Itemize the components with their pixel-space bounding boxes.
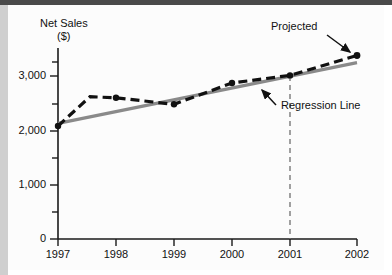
regression-line-series xyxy=(58,63,357,124)
y-axis-title-line2: ($) xyxy=(57,31,70,42)
data-point-2000 xyxy=(229,80,235,86)
x-tick-label-1997: 1997 xyxy=(34,249,82,260)
x-tick-label-1999: 1999 xyxy=(150,249,198,260)
data-point-1997 xyxy=(55,123,61,129)
y-tick-marks xyxy=(50,62,58,239)
y-tick-label-2000: 2,000 xyxy=(2,125,46,136)
projected-arrow-icon xyxy=(327,35,350,52)
axis-group xyxy=(58,48,357,239)
x-tick-label-1998: 1998 xyxy=(92,249,140,260)
x-tick-label-2002: 2002 xyxy=(333,249,381,260)
projected-annotation-label: Projected xyxy=(271,21,317,32)
chart-figure: Net Sales ($) 3,000 2,000 1,000 0 1997 1… xyxy=(0,0,392,275)
y-tick-label-1000: 1,000 xyxy=(2,179,46,190)
x-tick-marks xyxy=(58,239,357,246)
y-tick-label-3000: 3,000 xyxy=(2,70,46,81)
data-point-1999 xyxy=(171,101,177,107)
data-point-1998 xyxy=(113,95,119,101)
data-point-2002-projected xyxy=(354,52,361,59)
regression-line-annotation-label: Regression Line xyxy=(281,100,361,111)
x-tick-label-2000: 2000 xyxy=(208,249,256,260)
net-sales-data-markers xyxy=(55,52,361,129)
y-axis-title-line1: Net Sales xyxy=(40,18,88,29)
data-point-2001 xyxy=(287,72,293,78)
y-tick-label-0: 0 xyxy=(2,233,46,244)
x-tick-label-2001: 2001 xyxy=(266,249,314,260)
regression-line-arrow-icon xyxy=(262,90,276,105)
